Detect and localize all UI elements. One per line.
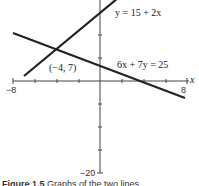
x-min-label: −8	[6, 85, 16, 95]
caption-text: Graphs of the two lines	[45, 179, 140, 186]
x-axis-label: x	[189, 74, 195, 85]
chart: y = 15 + 2x 6x + 7y = 25 (−4, 7) x −8 8 …	[0, 0, 199, 186]
x-max-label: 8	[181, 85, 186, 95]
intersection-label: (−4, 7)	[49, 62, 76, 74]
y-min-label: −20	[80, 168, 95, 178]
caption-prefix: Figure 1.5	[2, 179, 45, 186]
figure-caption: Figure 1.5 Graphs of the two lines	[2, 179, 139, 186]
line2-label: 6x + 7y = 25	[117, 59, 168, 70]
line1-label: y = 15 + 2x	[115, 7, 161, 18]
